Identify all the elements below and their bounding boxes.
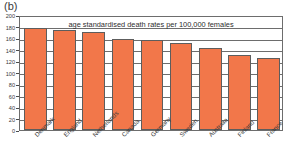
bar bbox=[24, 28, 47, 130]
panel-label: (b) bbox=[4, 0, 17, 13]
bar bbox=[257, 58, 280, 130]
y-tick-label: 180 bbox=[6, 25, 15, 31]
bar-slot bbox=[21, 17, 50, 130]
y-tick-label: 140 bbox=[6, 48, 15, 54]
x-axis-labels: DenmarkEnglandNetherlandsCanadaGermanySw… bbox=[19, 131, 283, 163]
y-tick-label: 0 bbox=[12, 128, 15, 134]
bar-slot bbox=[196, 17, 225, 130]
bar-slot bbox=[137, 17, 166, 130]
bar-slot bbox=[167, 17, 196, 130]
bar-slot bbox=[254, 17, 283, 130]
plot-area: age standardised death rates per 100,000… bbox=[19, 16, 283, 131]
x-label-slot: Denmark bbox=[20, 131, 49, 163]
figure-panel-b: (b) 020406080100120140160180200 age stan… bbox=[0, 0, 295, 163]
bar-slot bbox=[225, 17, 254, 130]
x-label-slot: France bbox=[253, 131, 282, 163]
x-label-slot: Canada bbox=[107, 131, 136, 163]
x-label-slot: England bbox=[49, 131, 78, 163]
y-tick-label: 100 bbox=[6, 71, 15, 77]
bar bbox=[170, 43, 193, 130]
y-tick-label: 160 bbox=[6, 36, 15, 42]
y-tick-label: 20 bbox=[9, 117, 15, 123]
y-tick-label: 40 bbox=[9, 105, 15, 111]
y-tick-label: 80 bbox=[9, 82, 15, 88]
bar bbox=[199, 48, 222, 130]
y-axis: 020406080100120140160180200 bbox=[0, 16, 19, 131]
x-label-slot: Sweden bbox=[166, 131, 195, 163]
x-label-slot: Germany bbox=[136, 131, 165, 163]
y-tick-label: 60 bbox=[9, 94, 15, 100]
x-label-slot: Netherlands bbox=[78, 131, 107, 163]
bar bbox=[141, 40, 164, 130]
bar-series bbox=[21, 17, 281, 130]
y-tick-label: 120 bbox=[6, 59, 15, 65]
bar bbox=[228, 55, 251, 130]
bar-slot bbox=[79, 17, 108, 130]
bar bbox=[53, 30, 76, 130]
x-label-slot: Finland bbox=[224, 131, 253, 163]
bar bbox=[82, 32, 105, 130]
bar-slot bbox=[50, 17, 79, 130]
y-tick-label: 200 bbox=[6, 13, 15, 19]
x-label-slot: Australia bbox=[195, 131, 224, 163]
